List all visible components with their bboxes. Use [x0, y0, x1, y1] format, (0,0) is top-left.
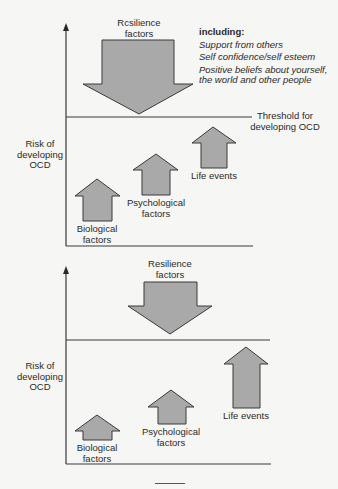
top-threshold-label: Threshold for developing OCD	[250, 111, 320, 132]
resilience-item: the world and other people	[199, 75, 327, 86]
bottom-resilience-label: Resilience factors	[140, 259, 200, 280]
label-line: Psychological	[139, 427, 203, 438]
resilience-item: Support from others	[199, 40, 327, 51]
label-line: factors	[124, 209, 188, 220]
label-line: factors	[140, 270, 200, 281]
label-line: Risk of	[10, 139, 70, 150]
label-line: Biological	[67, 224, 127, 235]
resilience-detail-list: including: Support from others Self conf…	[199, 27, 327, 86]
label-line: Resilience	[140, 259, 200, 270]
label-line: Life events	[217, 411, 275, 422]
top-y-axis-label: Risk of developing OCD	[10, 139, 70, 171]
label-line: OCD	[10, 382, 70, 393]
bottom-life-events-arrow-icon	[224, 347, 268, 408]
top-life-events-arrow-icon	[192, 127, 236, 168]
label-line: Psychological	[124, 198, 188, 209]
top-biological-arrow-icon	[75, 179, 120, 221]
decorative-rule	[155, 483, 185, 484]
label-line: factors	[67, 454, 127, 465]
bottom-psychological-label: Psychological factors	[139, 427, 203, 448]
label-line: OCD	[10, 160, 70, 171]
top-y-axis-arrowhead-icon	[63, 23, 69, 31]
bottom-life-events-label: Life events	[217, 411, 275, 422]
label-line: Rcsilience	[108, 18, 170, 29]
top-psychological-label: Psychological factors	[124, 198, 188, 219]
label-line: Biological	[67, 443, 127, 454]
label-line: Life events	[185, 171, 243, 182]
resilience-detail-heading: including:	[199, 27, 327, 38]
label-line: developing OCD	[250, 122, 320, 133]
bottom-psychological-arrow-icon	[148, 390, 194, 424]
top-resilience-label: Rcsilience factors	[108, 18, 170, 39]
label-line: Threshold for	[250, 111, 320, 122]
top-resilience-arrow-icon	[83, 40, 193, 114]
top-psychological-arrow-icon	[133, 154, 178, 195]
bottom-biological-arrow-icon	[75, 415, 120, 440]
label-line: factors	[67, 235, 127, 246]
label-line: Risk of	[10, 361, 70, 372]
top-biological-label: Biological factors	[67, 224, 127, 245]
bottom-resilience-arrow-icon	[128, 282, 212, 334]
top-life-events-label: Life events	[185, 171, 243, 182]
bottom-y-axis-label: Risk of developing OCD	[10, 361, 70, 393]
bottom-y-axis-arrowhead-icon	[63, 266, 69, 274]
bottom-biological-label: Biological factors	[67, 443, 127, 464]
resilience-item: Self confidence/self esteem	[199, 52, 327, 63]
label-line: factors	[139, 438, 203, 449]
label-line: factors	[108, 29, 170, 40]
